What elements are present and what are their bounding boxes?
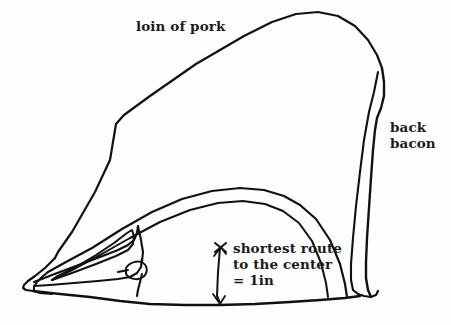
bone-foramen-hole (126, 262, 147, 280)
measurement-arrow-group (213, 243, 226, 304)
annotation-line-1: shortest route (233, 241, 342, 257)
label-back-bacon: backbacon (390, 120, 436, 152)
base-line-group (33, 291, 360, 305)
diagram-canvas: loin of pork backbacon shortest routeto … (0, 0, 451, 325)
bone-right-lower (137, 274, 142, 296)
label-loin-of-pork: loin of pork (136, 19, 225, 35)
bone-hollow-triangle (52, 230, 134, 280)
bacon-outer-edge (366, 68, 384, 297)
annotation-line-3: = 1in (233, 273, 342, 289)
label-back-bacon-line1: back (390, 120, 436, 136)
bone-upper-edge (34, 226, 138, 282)
loin-top-outline (55, 12, 382, 258)
bacon-inner-edge (351, 72, 378, 290)
label-shortest-route-annotation: shortest routeto the center= 1in (233, 241, 342, 289)
annotation-line-2: to the center (233, 257, 342, 273)
pork-loin-line-drawing (0, 0, 451, 325)
base-bottom-edge (33, 291, 360, 305)
measurement-arrow-shaft (217, 248, 220, 303)
label-back-bacon-line2: bacon (390, 136, 436, 152)
